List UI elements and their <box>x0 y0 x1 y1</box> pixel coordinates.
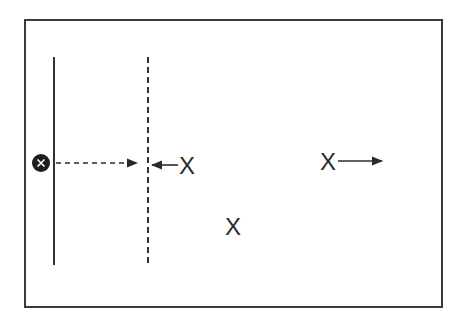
diagram-canvas <box>0 0 462 324</box>
filled-circle-x-icon <box>32 154 50 172</box>
label-x-right: X <box>320 150 336 174</box>
label-x-bottom: X <box>225 215 241 239</box>
label-x-near-dashed-line: X <box>179 154 195 178</box>
